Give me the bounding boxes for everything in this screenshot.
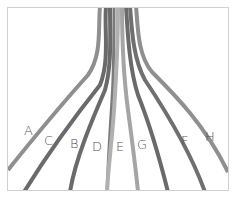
label-a: A: [24, 124, 33, 137]
strand-g: [122, 6, 138, 192]
label-d: D: [92, 140, 102, 153]
label-c: C: [44, 134, 53, 147]
label-h: H: [205, 130, 215, 143]
label-e: E: [116, 140, 124, 153]
label-g: G: [137, 138, 147, 151]
strands-drawing: [0, 0, 235, 198]
label-b: B: [70, 137, 79, 150]
label-f: F: [181, 134, 188, 147]
